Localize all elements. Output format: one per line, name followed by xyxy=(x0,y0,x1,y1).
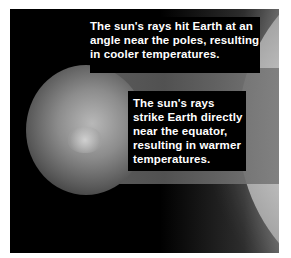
earth-landmass xyxy=(68,127,102,153)
diagram-frame: The sun's rays hit Earth at an angle nea… xyxy=(10,9,279,253)
equator-label: The sun's rays strike Earth directly nea… xyxy=(133,96,248,166)
poles-label: The sun's rays hit Earth at an angle nea… xyxy=(90,19,270,61)
